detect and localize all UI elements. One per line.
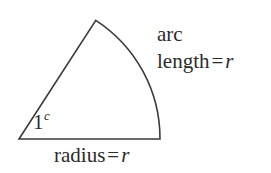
arc-label-line1: arc bbox=[157, 24, 234, 45]
radius-word: radius bbox=[54, 143, 105, 167]
arc-variable: r bbox=[225, 49, 233, 73]
sector-figure: 1c arc length=r radius=r bbox=[0, 0, 271, 173]
arc-label-line2: length=r bbox=[157, 51, 234, 72]
arc-equals-sign: = bbox=[212, 49, 224, 73]
radius-label: radius=r bbox=[54, 145, 129, 166]
arc-length-word: length bbox=[157, 49, 210, 73]
angle-value: 1 bbox=[33, 110, 44, 134]
radius-equals-sign: = bbox=[107, 143, 119, 167]
angle-superscript: c bbox=[44, 108, 50, 123]
angle-label: 1c bbox=[33, 110, 49, 133]
arc-length-label: arc length=r bbox=[157, 24, 234, 72]
radius-variable: r bbox=[121, 143, 129, 167]
